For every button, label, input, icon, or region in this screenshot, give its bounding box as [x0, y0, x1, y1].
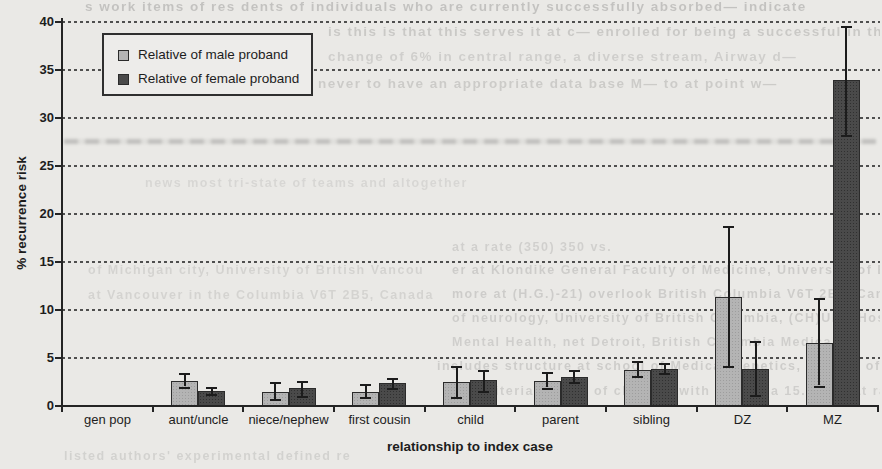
y-tick-20 [55, 213, 62, 215]
gridline-30 [62, 117, 880, 119]
ghost-text-line-2: change of 6% in central range, a diverse… [328, 49, 880, 64]
errorbar-female-child [483, 370, 485, 391]
errorbar-female-dz-cap-bottom [750, 395, 761, 397]
legend-item-female-proband: Relative of female proband [118, 67, 311, 91]
y-tick-label-35: 35 [18, 63, 54, 77]
errorbar-male-sibling [637, 361, 639, 376]
ghost-text-line-1: is this is that this serves it at c— enr… [328, 24, 880, 39]
y-tick-40 [55, 21, 62, 23]
errorbar-male-sibling-cap-top [632, 361, 643, 363]
legend: Relative of male proband Relative of fem… [102, 33, 313, 96]
errorbar-male-first-cousin-cap-bottom [360, 397, 371, 399]
errorbar-female-dz [755, 341, 757, 396]
errorbar-female-child-cap-top [478, 370, 489, 372]
x-label-parent: parent [515, 412, 606, 427]
x-label-niece-nephew: niece/nephew [243, 412, 334, 427]
errorbar-male-niece-nephew-cap-top [270, 382, 281, 384]
x-label-aunt-uncle: aunt/uncle [153, 412, 244, 427]
errorbar-male-parent-cap-bottom [542, 388, 553, 390]
gridline-25 [62, 165, 880, 167]
ghost-text-line-5: at a rate (350) 350 vs. [452, 240, 880, 254]
errorbar-female-parent-cap-bottom [569, 382, 580, 384]
x-label-mz: MZ [787, 412, 878, 427]
ghost-text-line-13: at Vancouver in the Columbia V6T 2B5, Ca… [88, 288, 440, 302]
errorbar-female-mz-cap-bottom [841, 135, 852, 137]
errorbar-male-dz-cap-top [723, 226, 734, 228]
errorbar-female-first-cousin-cap-top [387, 378, 398, 380]
errorbar-male-aunt-uncle-cap-top [179, 373, 190, 375]
errorbar-female-sibling-cap-top [659, 363, 670, 365]
y-tick-label-30: 30 [18, 111, 54, 125]
errorbar-female-mz-cap-top [841, 26, 852, 28]
y-tick-label-40: 40 [18, 15, 54, 29]
errorbar-male-aunt-uncle-cap-bottom [179, 387, 190, 389]
y-axis-title: % recurrence risk [14, 156, 29, 269]
errorbar-male-niece-nephew [274, 382, 276, 399]
ghost-text-line-4: news most tri-state of teams and altoget… [145, 176, 475, 190]
legend-label-male-proband: Relative of male proband [138, 48, 288, 62]
gridline-40 [62, 21, 880, 23]
errorbar-male-child-cap-top [451, 366, 462, 368]
errorbar-male-niece-nephew-cap-bottom [270, 399, 281, 401]
gridline-10 [62, 309, 880, 311]
errorbar-male-dz [728, 226, 730, 366]
x-axis-title: relationship to index case [320, 439, 620, 454]
y-tick-5 [55, 357, 62, 359]
ghost-text-line-3: never to have an appropriate data base M… [318, 76, 880, 91]
errorbar-female-niece-nephew-cap-top [297, 381, 308, 383]
ghost-text-line-6: er at Klondike General Faculty of Medici… [452, 263, 880, 277]
ghost-text-band [64, 139, 876, 144]
errorbar-female-niece-nephew-cap-bottom [297, 396, 308, 398]
y-tick-label-5: 5 [18, 351, 54, 365]
errorbar-male-child [456, 366, 458, 398]
x-label-dz: DZ [697, 412, 788, 427]
x-label-sibling: sibling [606, 412, 697, 427]
errorbar-male-dz-cap-bottom [723, 366, 734, 368]
legend-swatch-female-proband-icon [118, 74, 129, 85]
scanned-bar-chart-figure: s work items of res dents of individuals… [0, 0, 882, 469]
errorbar-male-mz-cap-top [814, 298, 825, 300]
errorbar-female-sibling-cap-bottom [659, 373, 670, 375]
x-axis [61, 405, 879, 407]
y-tick-10 [55, 309, 62, 311]
errorbar-male-first-cousin-cap-top [360, 384, 371, 386]
y-tick-35 [55, 69, 62, 71]
errorbar-male-parent [546, 372, 548, 387]
x-label-first-cousin: first cousin [334, 412, 425, 427]
ghost-text-line-8: of neurology, University of British Colu… [452, 311, 880, 325]
errorbar-female-niece-nephew [301, 381, 303, 396]
ghost-text-line-12: of Michigan city, University of British … [88, 263, 440, 277]
y-tick-30 [55, 117, 62, 119]
errorbar-male-mz-cap-bottom [814, 386, 825, 388]
errorbar-female-child-cap-bottom [478, 391, 489, 393]
errorbar-male-parent-cap-top [542, 372, 553, 374]
x-label-child: child [425, 412, 516, 427]
y-tick-15 [55, 261, 62, 263]
legend-swatch-male-proband-icon [118, 50, 129, 61]
errorbar-female-mz [845, 26, 847, 135]
legend-label-female-proband: Relative of female proband [138, 72, 299, 86]
errorbar-male-mz [818, 298, 820, 385]
y-tick-label-10: 10 [18, 303, 54, 317]
y-tick-25 [55, 165, 62, 167]
legend-item-male-proband: Relative of male proband [118, 43, 311, 67]
y-tick-label-0: 0 [18, 399, 54, 413]
gridline-20 [62, 213, 880, 215]
errorbar-male-child-cap-bottom [451, 397, 462, 399]
ghost-text-line-0: s work items of res dents of individuals… [85, 0, 880, 14]
errorbar-female-parent-cap-top [569, 370, 580, 372]
x-label-gen-pop: gen pop [62, 412, 153, 427]
gridline-5 [62, 357, 880, 359]
errorbar-female-dz-cap-top [750, 341, 761, 343]
errorbar-female-first-cousin-cap-bottom [387, 388, 398, 390]
gridline-15 [62, 261, 880, 263]
errorbar-male-sibling-cap-bottom [632, 376, 643, 378]
errorbar-female-aunt-uncle-cap-bottom [206, 394, 217, 396]
errorbar-female-aunt-uncle-cap-top [206, 387, 217, 389]
